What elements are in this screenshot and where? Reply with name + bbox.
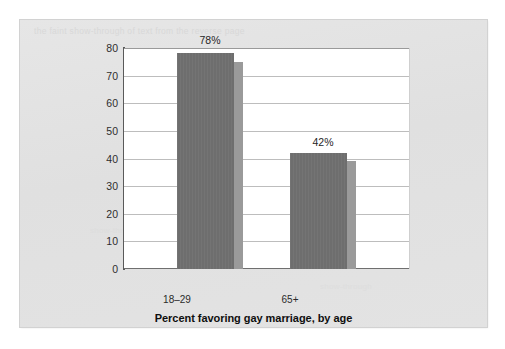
y-tick-40: 40 [78, 153, 118, 165]
bar-shadow-18-29 [234, 62, 243, 269]
gridline-60 [124, 103, 409, 104]
bar-shadow-65-plus [347, 161, 356, 269]
y-tick-0: 0 [78, 263, 118, 275]
data-label-65-plus: 42% [290, 136, 356, 148]
scanned-page: the faint show-through of text from the … [0, 0, 505, 349]
y-tick-10: 10 [78, 235, 118, 247]
data-label-18-29: 78% [177, 34, 243, 46]
gridline-baseline-0 [124, 268, 409, 269]
y-tick-80: 80 [78, 42, 118, 54]
gridline-40 [124, 159, 409, 160]
bar-65-plus[interactable] [290, 153, 347, 269]
y-tick-20: 20 [78, 208, 118, 220]
y-tick-50: 50 [78, 125, 118, 137]
bar-18-29[interactable] [177, 53, 234, 269]
plot-area: 78% 42% [124, 48, 410, 269]
gridline-10 [124, 241, 409, 242]
scan-ghost-text-right: show-through [320, 282, 372, 291]
bar-group-18-29[interactable] [177, 53, 243, 269]
gridline-30 [124, 186, 409, 187]
gridline-50 [124, 131, 409, 132]
gridline-70 [124, 76, 409, 77]
y-axis-tick-labels: 80 70 60 50 40 30 20 10 0 [70, 48, 118, 269]
y-tick-30: 30 [78, 180, 118, 192]
figure-panel: the faint show-through of text from the … [20, 20, 487, 327]
bar-group-65-plus[interactable] [290, 153, 356, 269]
y-tick-60: 60 [78, 97, 118, 109]
y-tick-70: 70 [78, 70, 118, 82]
x-axis-label-18-29: 18–29 [132, 294, 222, 305]
gridline-20 [124, 214, 409, 215]
x-axis-label-65-plus: 65+ [245, 294, 335, 305]
gridline-80 [124, 48, 409, 49]
chart-title: Percent favoring gay marriage, by age [20, 312, 487, 324]
